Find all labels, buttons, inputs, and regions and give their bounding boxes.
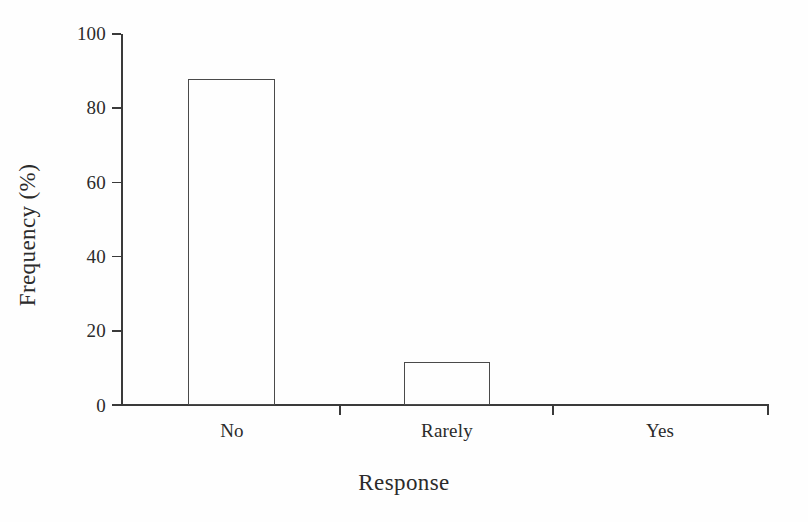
x-tick-sep-1	[339, 405, 341, 415]
y-tick-label-60-wrap: 60	[48, 173, 106, 192]
chart-figure: 0 20 40 60 80 100 Frequency (%) No Rarel…	[0, 0, 808, 522]
y-tick-label-0-wrap: 0	[48, 396, 106, 415]
x-category-label-no: No	[172, 420, 292, 442]
bar-rarely	[404, 362, 490, 405]
y-tick-label-80: 80	[52, 98, 106, 117]
x-category-label-rarely: Rarely	[387, 420, 507, 442]
bar-no	[188, 79, 275, 406]
y-tick-label-60: 60	[52, 173, 106, 192]
y-tick-label-0: 0	[52, 396, 106, 415]
y-tick-label-40-wrap: 40	[48, 247, 106, 266]
y-axis-title: Frequency (%)	[15, 125, 41, 345]
y-tick-label-40: 40	[52, 247, 106, 266]
y-tick-60	[112, 182, 121, 184]
y-tick-100	[112, 33, 121, 35]
x-tick-sep-2	[552, 405, 554, 415]
x-axis-title: Response	[0, 470, 808, 496]
y-tick-label-100-wrap: 100	[48, 24, 106, 43]
x-category-label-yes: Yes	[600, 420, 720, 442]
y-tick-label-20: 20	[52, 321, 106, 340]
y-tick-label-20-wrap: 20	[48, 321, 106, 340]
y-axis-line	[121, 34, 123, 406]
y-tick-label-100: 100	[52, 24, 106, 43]
y-tick-label-80-wrap: 80	[48, 98, 106, 117]
y-tick-20	[112, 330, 121, 332]
y-tick-80	[112, 107, 121, 109]
y-tick-40	[112, 256, 121, 258]
x-tick-end	[767, 405, 769, 415]
